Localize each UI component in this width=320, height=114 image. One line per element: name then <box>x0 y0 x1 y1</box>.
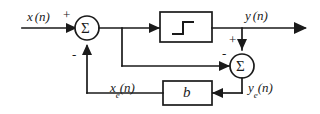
arrowhead-output-yn <box>294 22 307 34</box>
gain-block-label: b <box>183 85 191 100</box>
summer-1-sigma-symbol: Σ <box>81 21 90 36</box>
summer-2-plus-sign: + <box>229 33 236 46</box>
error-output-signal-label: ye(n) <box>248 79 273 98</box>
input-signal-arg: (n) <box>35 9 50 24</box>
summer-1-plus-sign: + <box>63 8 70 21</box>
error-feedback-subscript: e <box>116 90 120 100</box>
output-signal-var: y <box>245 8 251 23</box>
error-feedback-arg: (n) <box>120 80 135 95</box>
output-signal-arg: (n) <box>253 8 268 23</box>
arrowhead-into-gain-block <box>212 88 223 98</box>
arrowhead-into-summer2-top <box>237 39 247 50</box>
quantizer-block <box>160 12 212 42</box>
arrowhead-into-quantizer <box>149 23 160 33</box>
error-feedback-var: x <box>110 80 116 95</box>
arrowhead-into-summer2-left <box>219 61 230 71</box>
summer-1-minus-sign: - <box>72 48 76 61</box>
input-signal-var: x <box>27 9 33 24</box>
error-output-subscript: e <box>254 90 258 100</box>
summer-2-sigma-symbol: Σ <box>236 59 245 74</box>
summer-2-minus-sign: - <box>222 47 226 60</box>
input-signal-label: x(n) <box>27 8 50 24</box>
error-feedback-signal-label: xe(n) <box>110 79 135 98</box>
arrowhead-into-summer1-bottom <box>82 44 92 55</box>
block-diagram-canvas: Σ Σ b + - + - x(n) y(n) ye(n) xe(n) <box>0 0 320 114</box>
error-output-var: y <box>248 80 254 95</box>
error-output-arg: (n) <box>258 80 273 95</box>
output-signal-label: y(n) <box>245 7 268 23</box>
